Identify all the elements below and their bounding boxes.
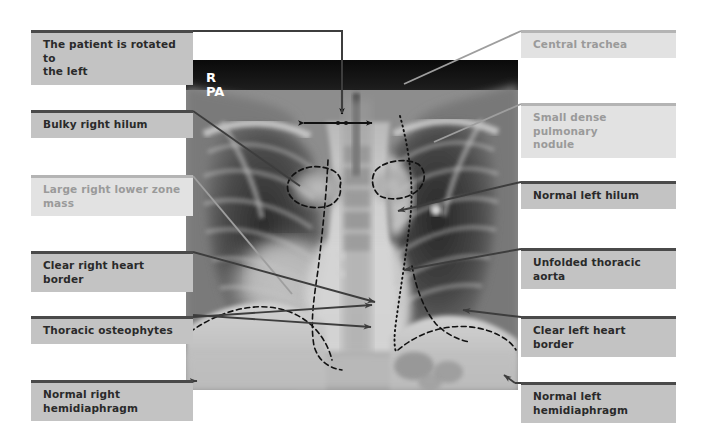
label-text: Clear left heart border [533,324,667,351]
label-body: Small dense pulmonary nodule [521,106,676,158]
label-normal-right-hemidiaphragm: Normal right hemidiaphragm [31,380,193,421]
label-clear-right-heart-border: Clear right heart border [31,251,193,292]
label-clear-left-heart-border: Clear left heart border [521,316,676,357]
label-text: Normal right hemidiaphragm [43,388,184,415]
label-large-right-lower-zone-mass: Large right lower zone mass [31,175,193,216]
label-small-dense-pulmonary-nodule: Small dense pulmonary nodule [521,103,676,158]
label-patient-rotated: The patient is rotated to the left [31,30,193,85]
label-bulky-right-hilum: Bulky right hilum [31,110,193,138]
label-text: Large right lower zone mass [43,183,184,210]
pulmonary-nodule [431,205,442,216]
label-body: Clear left heart border [521,319,676,357]
svg-text:PA: PA [206,84,224,99]
label-text: Small dense pulmonary nodule [533,111,667,152]
label-body: Clear right heart border [31,254,193,292]
label-body: Normal left hilum [521,184,676,209]
annotated-radiograph-figure: R PA [0,0,701,443]
label-body: Normal right hemidiaphragm [31,383,193,421]
label-text: Normal left hilum [533,189,667,203]
label-text: Thoracic osteophytes [43,324,184,338]
label-unfolded-thoracic-aorta: Unfolded thoracic aorta [521,248,676,289]
label-normal-left-hilum: Normal left hilum [521,181,676,209]
label-text: Normal left hemidiaphragm [533,390,667,417]
svg-text:R: R [206,70,216,85]
label-body: Large right lower zone mass [31,178,193,216]
label-text: Central trachea [533,38,667,52]
label-body: Unfolded thoracic aorta [521,251,676,289]
label-normal-left-hemidiaphragm: Normal left hemidiaphragm [521,382,676,423]
label-text: Clear right heart border [43,259,184,286]
chest-xray-image: R PA [186,60,518,390]
label-body: Bulky right hilum [31,113,193,138]
label-thoracic-osteophytes: Thoracic osteophytes [31,316,193,344]
label-text: The patient is rotated to the left [43,38,184,79]
label-body: Central trachea [521,33,676,58]
label-text: Unfolded thoracic aorta [533,256,667,283]
label-body: Normal left hemidiaphragm [521,385,676,423]
label-body: Thoracic osteophytes [31,319,193,344]
label-text: Bulky right hilum [43,118,184,132]
label-central-trachea: Central trachea [521,30,676,58]
label-body: The patient is rotated to the left [31,33,193,85]
